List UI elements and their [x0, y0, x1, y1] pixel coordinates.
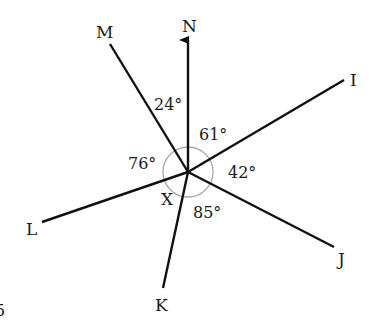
angle-label-ni: 61°: [199, 125, 227, 144]
label-k: K: [155, 295, 168, 315]
label-i: I: [350, 70, 357, 90]
label-l: L: [26, 219, 37, 239]
angle-label-mn: 24°: [154, 95, 182, 114]
label-j: J: [336, 249, 345, 269]
label-n: N: [182, 16, 197, 36]
angle-label-ij: 42°: [228, 163, 256, 182]
angle-label-jk: 85°: [193, 203, 221, 222]
label-x: X: [161, 189, 174, 209]
edge-fragment: 5: [0, 301, 5, 320]
angle-label-lm: 76°: [128, 154, 156, 173]
angle-diagram: N I J K L M X 24° 61° 42° 85° 76° 5: [0, 0, 371, 322]
label-m: M: [96, 22, 113, 42]
